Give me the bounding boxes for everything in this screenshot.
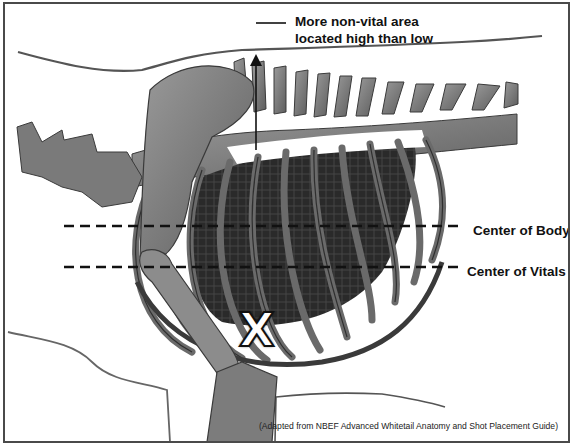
shot-placement-x-marker: X: [239, 307, 274, 353]
label-center-of-body: Center of Body: [473, 222, 570, 239]
back-outline: [18, 36, 542, 71]
neck-vertebrae: [17, 122, 142, 207]
source-credit: (Adapted from NBEF Advanced Whitetail An…: [259, 421, 558, 431]
arrow-head-icon: [250, 54, 262, 66]
callout-line-2: located high than low: [295, 30, 433, 47]
callout-line-1: More non-vital area: [295, 13, 433, 30]
label-center-of-vitals: Center of Vitals: [467, 263, 566, 280]
callout-non-vital-area: More non-vital area located high than lo…: [295, 13, 433, 47]
belly-outline: [275, 393, 445, 442]
diagram-frame: More non-vital area located high than lo…: [3, 2, 570, 443]
brisket-outline: [8, 332, 170, 442]
